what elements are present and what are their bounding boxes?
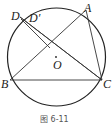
label-a: A (83, 1, 92, 15)
label-d-prime: D′ (28, 11, 41, 25)
label-o: O (53, 58, 62, 72)
geometry-figure: D D′ A B C O 图 6-11 (0, 0, 112, 124)
label-b: B (1, 77, 9, 91)
figure-caption: 图 6-11 (40, 115, 69, 124)
label-c: C (103, 77, 112, 91)
segment-ba (10, 10, 86, 80)
label-d: D (10, 9, 20, 23)
